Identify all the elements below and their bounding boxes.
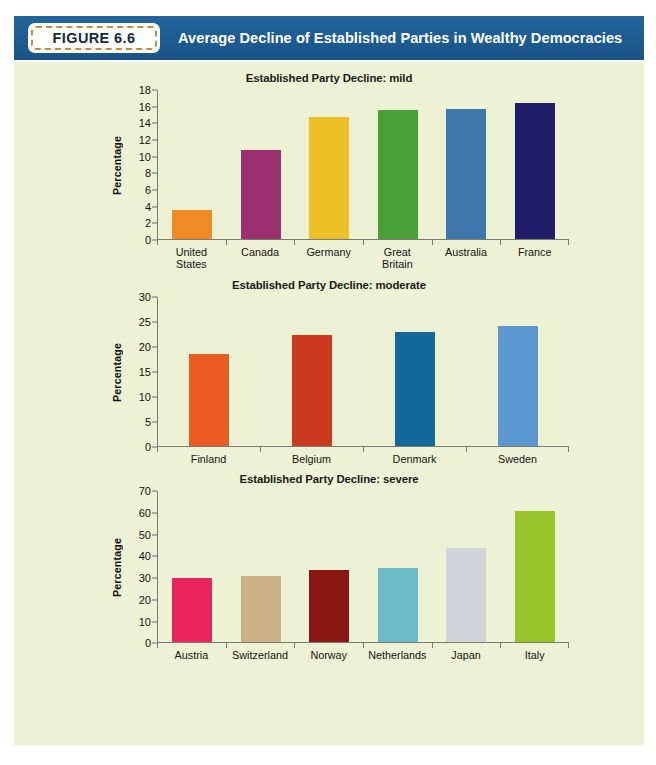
bar-slot (466, 297, 569, 446)
x-axis-labels: AustriaSwitzerlandNorwayNetherlandsJapan… (157, 643, 569, 661)
x-tick-label: Norway (294, 649, 363, 661)
x-tick-cell: Sweden (466, 447, 569, 465)
figure-banner: FIGURE 6.6 Average Decline of Establishe… (14, 16, 644, 60)
y-tick-label: 0 (145, 637, 151, 649)
x-tick-label: Denmark (363, 453, 466, 465)
bar (498, 326, 538, 446)
x-tick-label: Finland (157, 453, 260, 465)
x-tick-cell: Austria (157, 643, 226, 661)
x-tick-mark (226, 240, 227, 245)
x-tick-cell: United States (157, 240, 226, 271)
x-tick-label: Germany (294, 246, 363, 258)
x-tick-mark (363, 643, 364, 648)
x-tick-mark (157, 643, 158, 648)
x-tick-label: Canada (226, 246, 295, 258)
x-tick-cell: Canada (226, 240, 295, 271)
y-tick-label: 16 (139, 101, 151, 113)
chart-title: Established Party Decline: severe (14, 473, 644, 485)
bar-slot (432, 90, 501, 239)
bar-slot (501, 491, 570, 642)
bar (446, 109, 486, 239)
x-tick-mark (432, 643, 433, 648)
y-axis-ticks: 051015202530 (125, 297, 157, 447)
x-tick-label: Sweden (466, 453, 569, 465)
plot-area: Percentage024681012141618 (109, 90, 569, 240)
bar (172, 210, 212, 239)
chart-title: Established Party Decline: mild (14, 72, 644, 84)
x-tick-cell: Denmark (363, 447, 466, 465)
bar (189, 354, 229, 445)
y-tick-label: 10 (139, 391, 151, 403)
plot-canvas (157, 491, 569, 643)
bar-slot (364, 491, 433, 642)
bar (378, 568, 418, 642)
x-tick-mark (363, 447, 364, 452)
y-tick-label: 60 (139, 507, 151, 519)
bar-slot (501, 90, 570, 239)
y-tick-label: 70 (139, 485, 151, 497)
bar (172, 578, 212, 643)
plot-canvas (157, 297, 569, 447)
y-axis-label: Percentage (109, 491, 125, 643)
x-tick-cell: Japan (432, 643, 501, 661)
y-tick-label: 18 (139, 84, 151, 96)
y-axis-label: Percentage (109, 90, 125, 240)
bar (309, 117, 349, 240)
bar (515, 103, 555, 239)
figure-page: FIGURE 6.6 Average Decline of Establishe… (0, 0, 656, 765)
x-tick-mark (568, 240, 569, 245)
x-axis-labels: FinlandBelgiumDenmarkSweden (157, 447, 569, 465)
x-tick-cell: Great Britain (363, 240, 432, 271)
x-axis-labels: United StatesCanadaGermanyGreat BritainA… (157, 240, 569, 271)
plot-area: Percentage051015202530 (109, 297, 569, 447)
x-tick-mark (294, 240, 295, 245)
bar (378, 110, 418, 239)
x-tick-cell: Australia (432, 240, 501, 271)
bar-slot (158, 491, 227, 642)
x-tick-mark (363, 240, 364, 245)
figure-number-box: FIGURE 6.6 (28, 23, 160, 53)
x-tick-mark (466, 447, 467, 452)
y-tick-label: 12 (139, 134, 151, 146)
y-tick-label: 10 (139, 616, 151, 628)
x-tick-label: Great Britain (363, 246, 432, 271)
figure-title: Average Decline of Established Parties i… (178, 30, 622, 46)
y-tick-label: 5 (145, 416, 151, 428)
figure-number-label: FIGURE 6.6 (53, 30, 136, 46)
bar (515, 511, 555, 643)
y-tick-label: 0 (145, 441, 151, 453)
y-tick-label: 50 (139, 529, 151, 541)
x-tick-mark (226, 643, 227, 648)
bar-slot (227, 90, 296, 239)
chart-1: Established Party Decline: moderatePerce… (14, 279, 644, 465)
bar-slot (364, 297, 467, 446)
bar-slot (364, 90, 433, 239)
x-tick-mark (432, 240, 433, 245)
y-tick-label: 6 (145, 184, 151, 196)
x-tick-label: Australia (432, 246, 501, 258)
x-tick-cell: Finland (157, 447, 260, 465)
x-tick-mark (157, 240, 158, 245)
bar (292, 335, 332, 446)
x-tick-mark (568, 643, 569, 648)
y-tick-label: 25 (139, 316, 151, 328)
x-tick-cell: France (500, 240, 569, 271)
x-tick-label: Switzerland (226, 649, 295, 661)
y-tick-label: 30 (139, 291, 151, 303)
bar-slot (227, 491, 296, 642)
x-tick-label: Japan (432, 649, 501, 661)
y-tick-label: 0 (145, 234, 151, 246)
x-tick-label: Netherlands (363, 649, 432, 661)
x-tick-mark (568, 447, 569, 452)
x-tick-cell: Netherlands (363, 643, 432, 661)
chart-2: Established Party Decline: severePercent… (14, 473, 644, 661)
bar-slot (158, 90, 227, 239)
y-tick-label: 15 (139, 366, 151, 378)
bar-slot (261, 297, 364, 446)
x-tick-mark (260, 447, 261, 452)
y-tick-label: 20 (139, 594, 151, 606)
y-axis-ticks: 010203040506070 (125, 491, 157, 643)
bar-slot (158, 297, 261, 446)
y-axis-ticks: 024681012141618 (125, 90, 157, 240)
y-tick-label: 10 (139, 151, 151, 163)
